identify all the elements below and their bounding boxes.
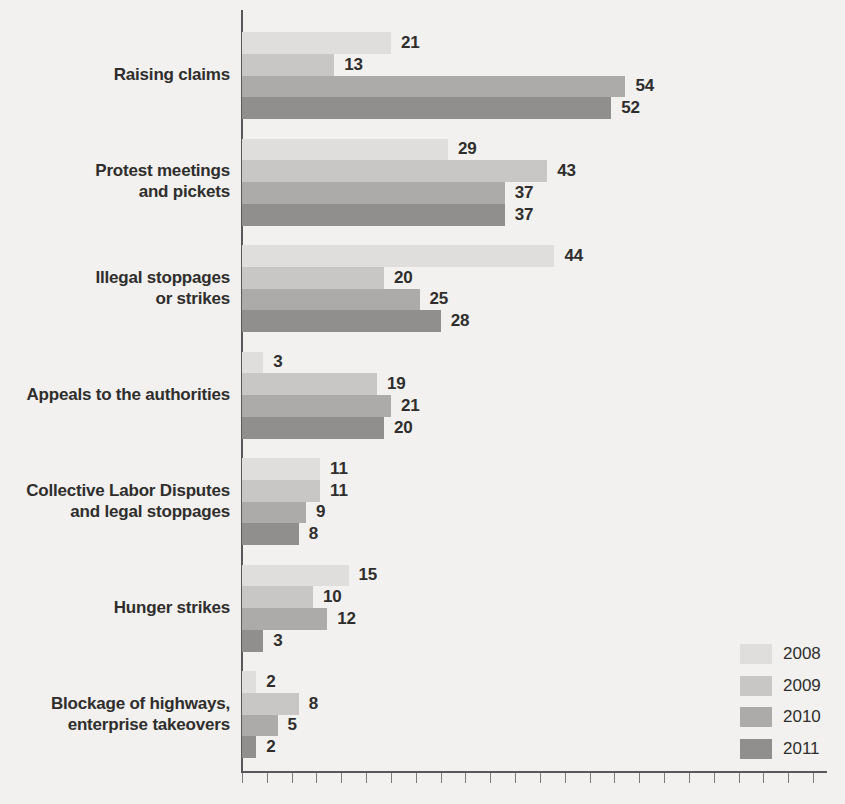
category-label: Illegal stoppages or strikes xyxy=(0,245,230,332)
x-axis-tick xyxy=(292,773,293,783)
legend-swatch xyxy=(740,644,772,664)
x-axis-tick xyxy=(590,773,591,783)
legend-label: 2008 xyxy=(783,644,821,664)
value-label: 19 xyxy=(387,374,406,394)
category-label: Hunger strikes xyxy=(0,565,230,652)
legend-item-2011: 2011 xyxy=(740,739,820,759)
legend-label: 2009 xyxy=(783,676,821,696)
value-label: 28 xyxy=(451,311,470,331)
value-label: 5 xyxy=(288,715,297,735)
value-label: 11 xyxy=(330,481,348,501)
bar-2011 xyxy=(242,97,611,119)
value-label: 25 xyxy=(430,289,449,309)
bar-2011 xyxy=(242,736,256,758)
x-axis-tick xyxy=(515,773,516,783)
bar-2008 xyxy=(242,352,263,374)
x-axis-tick xyxy=(316,773,317,783)
value-label: 44 xyxy=(564,246,583,266)
x-axis-tick xyxy=(242,773,243,783)
legend-item-2009: 2009 xyxy=(740,676,821,696)
value-label: 52 xyxy=(621,98,640,118)
value-label: 20 xyxy=(394,268,413,288)
value-label: 3 xyxy=(273,631,282,651)
x-axis-tick xyxy=(813,773,814,783)
value-label: 13 xyxy=(344,55,363,75)
legend-label: 2011 xyxy=(783,739,820,759)
value-label: 10 xyxy=(323,587,342,607)
legend-swatch xyxy=(740,676,772,696)
bar-2008 xyxy=(242,671,256,693)
bar-2010 xyxy=(242,76,625,98)
bar-2011 xyxy=(242,630,263,652)
bar-2010 xyxy=(242,715,278,737)
bar-2008 xyxy=(242,565,349,587)
bar-2008 xyxy=(242,32,391,54)
category-label: Raising claims xyxy=(0,32,230,119)
x-axis-tick xyxy=(664,773,665,783)
bar-chart-figure: Raising claims21135452Protest meetings a… xyxy=(0,0,845,804)
category-label: Blockage of highways, enterprise takeove… xyxy=(0,671,230,758)
legend-item-2010: 2010 xyxy=(740,707,821,727)
bar-2009 xyxy=(242,160,547,182)
value-label: 37 xyxy=(515,205,534,225)
x-axis-tick xyxy=(490,773,491,783)
x-axis-tick xyxy=(565,773,566,783)
category-label: Protest meetings and pickets xyxy=(0,139,230,226)
legend-swatch xyxy=(740,707,772,727)
x-axis-tick xyxy=(267,773,268,783)
bar-2011 xyxy=(242,204,505,226)
bar-2010 xyxy=(242,608,327,630)
legend-item-2008: 2008 xyxy=(740,644,821,664)
bar-2010 xyxy=(242,289,420,311)
x-axis-tick xyxy=(540,773,541,783)
bar-2010 xyxy=(242,182,505,204)
value-label: 2 xyxy=(266,737,275,757)
value-label: 21 xyxy=(401,396,420,416)
value-label: 54 xyxy=(635,76,654,96)
x-axis-tick xyxy=(788,773,789,783)
value-label: 29 xyxy=(458,139,477,159)
bar-2009 xyxy=(242,267,384,289)
legend-swatch xyxy=(740,739,772,759)
x-axis-tick xyxy=(391,773,392,783)
x-axis-tick xyxy=(639,773,640,783)
x-axis-tick xyxy=(763,773,764,783)
bar-2008 xyxy=(242,245,554,267)
legend-label: 2010 xyxy=(783,707,821,727)
value-label: 15 xyxy=(359,565,378,585)
bar-2010 xyxy=(242,502,306,524)
x-axis-tick xyxy=(739,773,740,783)
x-axis-tick xyxy=(416,773,417,783)
x-axis-tick xyxy=(614,773,615,783)
category-label: Collective Labor Disputes and legal stop… xyxy=(0,458,230,545)
value-label: 43 xyxy=(557,161,576,181)
value-label: 2 xyxy=(266,672,275,692)
value-label: 11 xyxy=(330,459,348,479)
x-axis-tick xyxy=(465,773,466,783)
bar-2009 xyxy=(242,480,320,502)
bar-2008 xyxy=(242,139,448,161)
value-label: 3 xyxy=(273,352,282,372)
bar-2009 xyxy=(242,586,313,608)
value-label: 8 xyxy=(309,524,318,544)
bar-2011 xyxy=(242,523,299,545)
bar-2011 xyxy=(242,417,384,439)
value-label: 21 xyxy=(401,33,420,53)
x-axis-tick xyxy=(714,773,715,783)
x-axis-tick xyxy=(366,773,367,783)
bar-2011 xyxy=(242,310,441,332)
value-label: 37 xyxy=(515,183,534,203)
bar-2008 xyxy=(242,458,320,480)
category-label: Appeals to the authorities xyxy=(0,352,230,439)
value-label: 12 xyxy=(337,609,356,629)
x-axis-tick xyxy=(441,773,442,783)
value-label: 8 xyxy=(309,694,318,714)
bar-2010 xyxy=(242,395,391,417)
x-axis-tick xyxy=(689,773,690,783)
x-axis-tick xyxy=(341,773,342,783)
bar-2009 xyxy=(242,693,299,715)
value-label: 9 xyxy=(316,502,325,522)
value-label: 20 xyxy=(394,418,413,438)
bar-2009 xyxy=(242,54,334,76)
bar-2009 xyxy=(242,373,377,395)
